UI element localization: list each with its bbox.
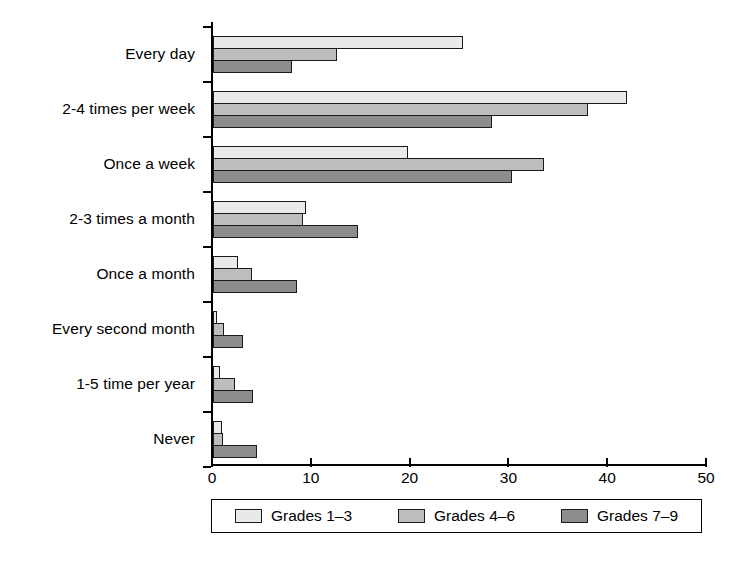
category-label: Once a month: [96, 265, 195, 283]
category-label: 2-4 times per week: [62, 100, 195, 118]
legend-item[interactable]: Grades 1–3: [235, 507, 352, 525]
x-axis-tick: [705, 458, 707, 467]
category-row: Every second month: [0, 301, 743, 356]
bar-group: [213, 256, 733, 292]
x-axis-tick: [409, 458, 411, 467]
y-axis-tick: [203, 81, 211, 83]
legend-swatch-icon: [235, 509, 262, 523]
category-row: 1-5 time per year: [0, 356, 743, 411]
x-axis-tick: [606, 458, 608, 467]
bar-2: [213, 170, 512, 183]
category-label: Every day: [125, 45, 195, 63]
bar-group: [213, 421, 733, 457]
bar-2: [213, 390, 253, 403]
y-axis-tick: [203, 246, 211, 248]
bar-group: [213, 146, 733, 182]
legend-swatch-icon: [561, 509, 588, 523]
x-axis-tick-label: 40: [599, 469, 616, 487]
legend-label: Grades 4–6: [434, 507, 515, 525]
bar-2: [213, 225, 358, 238]
y-axis-tick: [203, 136, 211, 138]
category-label: Once a week: [103, 155, 195, 173]
bar-group: [213, 366, 733, 402]
x-axis-tick: [310, 458, 312, 467]
bar-2: [213, 115, 492, 128]
bar-chart: Every day2-4 times per weekOnce a week2-…: [0, 0, 743, 574]
bar-group: [213, 311, 733, 347]
x-axis-tick-label: 0: [208, 469, 217, 487]
category-label: 2-3 times a month: [69, 210, 195, 228]
x-axis-tick-label: 10: [302, 469, 319, 487]
y-axis-tick: [203, 301, 211, 303]
category-row: Once a week: [0, 136, 743, 191]
y-axis-tick: [203, 466, 211, 468]
legend-item[interactable]: Grades 7–9: [561, 507, 678, 525]
chart-legend: Grades 1–3Grades 4–6Grades 7–9: [211, 499, 702, 533]
category-label: Every second month: [52, 320, 195, 338]
x-axis-tick-label: 20: [401, 469, 418, 487]
bar-group: [213, 91, 733, 127]
category-row: Never: [0, 411, 743, 466]
y-axis-tick: [203, 26, 211, 28]
category-row: Every day: [0, 26, 743, 81]
legend-swatch-icon: [398, 509, 425, 523]
bar-2: [213, 445, 257, 458]
legend-item[interactable]: Grades 4–6: [398, 507, 515, 525]
y-axis-tick: [203, 411, 211, 413]
y-axis-tick: [203, 356, 211, 358]
bar-group: [213, 36, 733, 72]
bar-2: [213, 335, 243, 348]
category-label: Never: [153, 430, 195, 448]
bar-group: [213, 201, 733, 237]
x-axis-tick: [507, 458, 509, 467]
category-label: 1-5 time per year: [76, 375, 195, 393]
category-row: 2-3 times a month: [0, 191, 743, 246]
y-axis-tick: [203, 191, 211, 193]
category-row: 2-4 times per week: [0, 81, 743, 136]
bar-2: [213, 280, 297, 293]
x-axis-tick-label: 50: [697, 469, 714, 487]
legend-label: Grades 1–3: [271, 507, 352, 525]
bar-2: [213, 60, 292, 73]
x-axis-tick: [211, 458, 213, 467]
category-row: Once a month: [0, 246, 743, 301]
x-axis-tick-label: 30: [500, 469, 517, 487]
legend-label: Grades 7–9: [597, 507, 678, 525]
